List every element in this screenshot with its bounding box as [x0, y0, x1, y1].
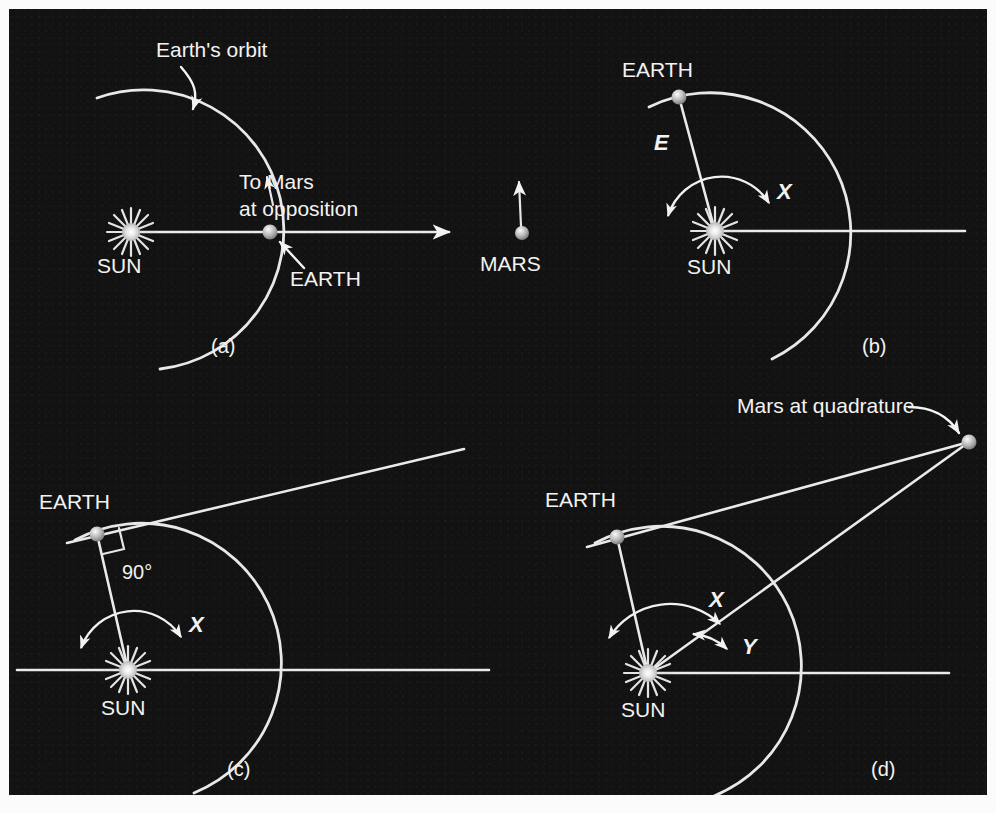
label-to-mars-line2-a: at opposition [239, 197, 358, 220]
earth-orbit-arc-b [649, 93, 851, 359]
panel-b: E X EARTH SUN (b) [622, 58, 965, 359]
label-sun-a: SUN [97, 254, 141, 277]
sun-earth-radius-c [97, 534, 128, 670]
label-mars-a: MARS [480, 252, 541, 275]
label-earth-b: EARTH [622, 58, 693, 81]
panel-label-a: (a) [211, 335, 235, 357]
sun-glyph-b [691, 207, 739, 255]
sun-glyph-c [104, 646, 152, 694]
label-mars-quadrature-d: Mars at quadrature [737, 394, 914, 417]
angle-arc-x-b [668, 177, 769, 216]
earth-orbit-pointer-a [181, 67, 195, 109]
earth-dot-d [610, 530, 625, 545]
earth-orbit-arc-d [595, 526, 801, 795]
earth-dot-a [263, 225, 278, 240]
earth-orbit-arc-c [75, 523, 281, 793]
mars-dot-d [962, 435, 977, 450]
label-sun-d: SUN [621, 698, 665, 721]
panel-a: Earth's orbit To Mars at opposition SUN … [97, 38, 541, 369]
earth-pointer-a [280, 242, 304, 268]
label-sun-b: SUN [687, 255, 731, 278]
label-earth-c: EARTH [39, 490, 110, 513]
label-earth-a: EARTH [290, 267, 361, 290]
panel-label-c: (c) [227, 758, 250, 780]
label-angle-y-d: Y [742, 634, 759, 659]
mars-motion-arrow-a [519, 182, 521, 226]
mars-quadrature-pointer-d [909, 407, 959, 433]
label-sun-c: SUN [101, 696, 145, 719]
panel-c: 90° X EARTH SUN (c) [17, 449, 489, 793]
label-angle-x-c: X [187, 612, 205, 637]
label-right-angle-c: 90° [122, 561, 152, 583]
line-of-sight-c [67, 449, 464, 543]
label-earth-orbit-a: Earth's orbit [156, 38, 268, 61]
label-to-mars-line1-a: To Mars [239, 170, 314, 193]
sun-mars-line-d [648, 442, 969, 673]
mars-dot-a [515, 226, 529, 240]
earth-dot-c [90, 527, 105, 542]
label-E-b: E [654, 130, 670, 155]
figure-plate: Earth's orbit To Mars at opposition SUN … [0, 0, 996, 813]
sun-glyph-d [624, 649, 672, 697]
label-angle-x-d: X [707, 587, 725, 612]
panel-label-b: (b) [862, 335, 886, 357]
label-angle-x-b: X [775, 179, 793, 204]
sun-earth-radius-d [617, 537, 648, 673]
diagram-canvas: Earth's orbit To Mars at opposition SUN … [9, 9, 987, 795]
label-earth-d: EARTH [545, 488, 616, 511]
sun-glyph-a [107, 208, 155, 256]
earth-mars-sight-line-d [587, 442, 969, 547]
panel-d: X Y EARTH SUN Mars at quadrature (d) [545, 394, 977, 795]
panel-label-d: (d) [871, 758, 895, 780]
angle-arc-x-c [81, 611, 181, 648]
diagram-svg: Earth's orbit To Mars at opposition SUN … [9, 9, 987, 795]
sun-earth-radius-b [679, 97, 715, 231]
earth-dot-b [672, 90, 687, 105]
